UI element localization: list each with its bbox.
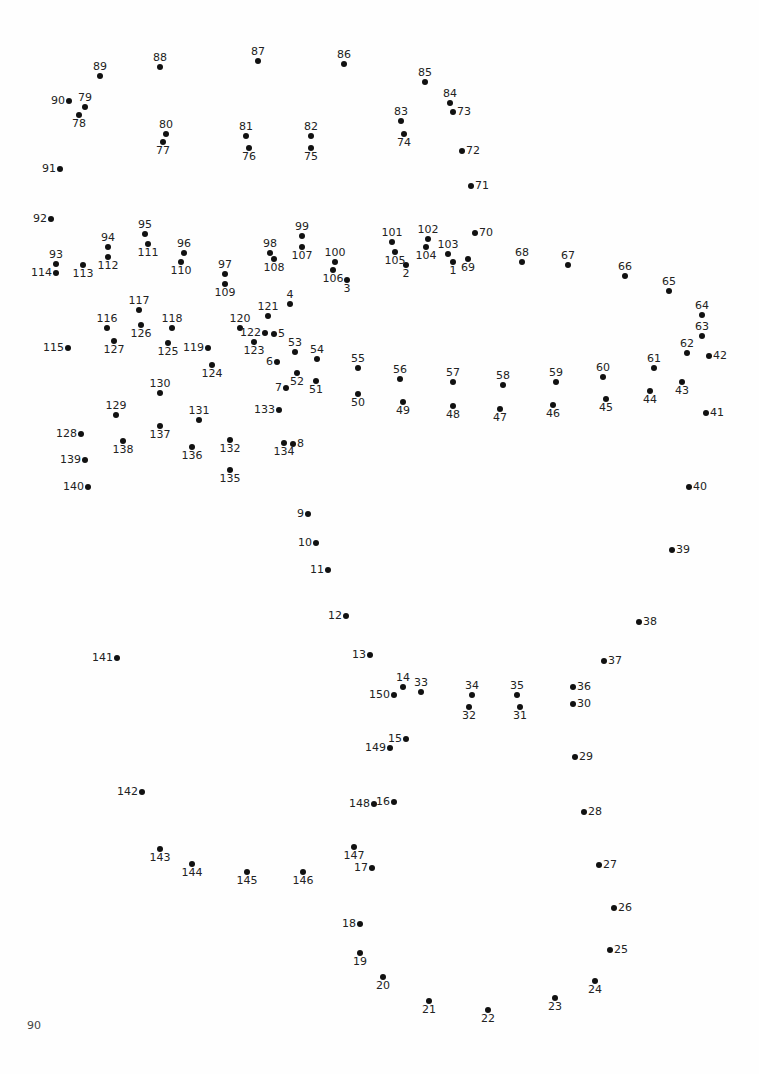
dot-point — [313, 540, 319, 546]
dot-number-label: 18 — [342, 918, 356, 930]
dot-point — [570, 701, 576, 707]
dot-number-label: 95 — [138, 219, 152, 231]
dot-point — [292, 349, 298, 355]
dot-point — [472, 230, 478, 236]
dot-number-label: 113 — [73, 268, 94, 280]
dot-number-label: 144 — [182, 867, 203, 879]
dot-number-label: 94 — [101, 232, 115, 244]
dot-number-label: 92 — [33, 213, 47, 225]
dot-number-label: 49 — [396, 405, 410, 417]
dot-point — [514, 692, 520, 698]
dot-point — [136, 307, 142, 313]
dot-number-label: 116 — [97, 313, 118, 325]
dot-number-label: 137 — [150, 429, 171, 441]
dot-point — [66, 98, 72, 104]
dot-point — [418, 689, 424, 695]
dot-number-label: 141 — [92, 652, 113, 664]
dot-point — [703, 410, 709, 416]
dot-number-label: 41 — [710, 407, 724, 419]
dot-point — [469, 692, 475, 698]
dot-number-label: 138 — [113, 444, 134, 456]
dot-number-label: 6 — [266, 356, 273, 368]
dot-number-label: 69 — [461, 262, 475, 274]
dot-point — [271, 331, 277, 337]
dot-number-label: 24 — [588, 984, 602, 996]
dot-number-label: 132 — [220, 443, 241, 455]
dot-number-label: 26 — [618, 902, 632, 914]
dot-point — [666, 288, 672, 294]
dot-number-label: 150 — [369, 689, 390, 701]
dot-number-label: 111 — [138, 247, 159, 259]
dot-number-label: 11 — [310, 564, 324, 576]
dot-point — [459, 148, 465, 154]
dot-number-label: 30 — [577, 698, 591, 710]
dot-number-label: 10 — [298, 537, 312, 549]
dot-number-label: 108 — [264, 262, 285, 274]
dot-point — [581, 809, 587, 815]
dot-point — [500, 382, 506, 388]
dot-point — [570, 684, 576, 690]
dot-number-label: 50 — [351, 397, 365, 409]
dot-number-label: 145 — [237, 875, 258, 887]
dot-point — [355, 365, 361, 371]
dot-number-label: 96 — [177, 238, 191, 250]
dot-number-label: 112 — [98, 260, 119, 272]
dot-number-label: 126 — [131, 328, 152, 340]
dot-number-label: 142 — [117, 786, 138, 798]
dot-number-label: 5 — [278, 328, 285, 340]
dot-point — [276, 407, 282, 413]
dot-point — [343, 613, 349, 619]
dot-number-label: 60 — [596, 362, 610, 374]
dot-point — [157, 390, 163, 396]
dot-point — [97, 73, 103, 79]
dot-number-label: 82 — [304, 121, 318, 133]
dot-number-label: 76 — [242, 151, 256, 163]
dot-point — [305, 511, 311, 517]
dot-number-label: 54 — [310, 344, 324, 356]
page-number: 90 — [27, 1019, 41, 1032]
dot-number-label: 100 — [325, 247, 346, 259]
dot-number-label: 110 — [171, 265, 192, 277]
dot-number-label: 99 — [295, 221, 309, 233]
dot-number-label: 12 — [328, 610, 342, 622]
dot-point — [607, 947, 613, 953]
dot-number-label: 51 — [309, 384, 323, 396]
dot-number-label: 47 — [493, 412, 507, 424]
dot-number-label: 22 — [481, 1013, 495, 1025]
dot-number-label: 58 — [496, 370, 510, 382]
dot-point — [387, 745, 393, 751]
dot-number-label: 79 — [78, 92, 92, 104]
dot-number-label: 66 — [618, 261, 632, 273]
dot-point — [163, 131, 169, 137]
dot-point — [105, 244, 111, 250]
dot-number-label: 68 — [515, 247, 529, 259]
dot-point — [265, 313, 271, 319]
dot-point — [450, 109, 456, 115]
dot-number-label: 128 — [56, 428, 77, 440]
dot-point — [157, 64, 163, 70]
dot-number-label: 34 — [465, 680, 479, 692]
dot-point — [169, 325, 175, 331]
dot-point — [332, 259, 338, 265]
dot-number-label: 17 — [354, 862, 368, 874]
dot-number-label: 87 — [251, 46, 265, 58]
dot-point — [267, 250, 273, 256]
dot-point — [398, 118, 404, 124]
dot-to-dot-worksheet: 1234567891011121314151617181920212223242… — [0, 0, 759, 1074]
dot-point — [82, 104, 88, 110]
dot-number-label: 147 — [344, 850, 365, 862]
dot-number-label: 14 — [396, 672, 410, 684]
dot-point — [262, 330, 268, 336]
dot-number-label: 9 — [297, 508, 304, 520]
dot-point — [669, 547, 675, 553]
dot-number-label: 44 — [643, 394, 657, 406]
dot-number-label: 135 — [220, 473, 241, 485]
dot-point — [113, 412, 119, 418]
dot-number-label: 57 — [446, 367, 460, 379]
dot-number-label: 21 — [422, 1004, 436, 1016]
dot-point — [142, 231, 148, 237]
dot-point — [357, 921, 363, 927]
dot-number-label: 33 — [414, 677, 428, 689]
dot-number-label: 105 — [385, 255, 406, 267]
dot-number-label: 19 — [353, 956, 367, 968]
